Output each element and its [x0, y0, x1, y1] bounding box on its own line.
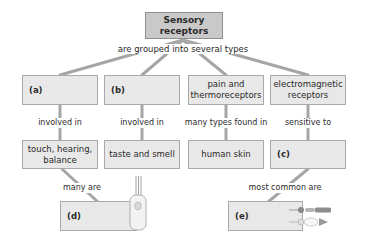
root-link-label: are grouped into several types [116, 44, 251, 54]
leaf-link-label-d: many are [61, 183, 103, 193]
type-node-pain-thermo: pain and thermoreceptors [188, 75, 264, 105]
target-node-touch: touch, hearing, balance [22, 140, 98, 169]
type-node-electromagnetic: electromagnetic receptors [270, 75, 346, 105]
type-node-a-label: (a) [29, 85, 43, 96]
target-node-taste: taste and smell [104, 140, 180, 169]
type-node-b: (b) [104, 75, 180, 105]
type-node-b-label: (b) [111, 85, 125, 96]
type-node-electromagnetic-label: electromagnetic receptors [271, 79, 345, 101]
type-node-a: (a) [22, 75, 98, 105]
leaf-node-d-label: (d) [67, 211, 81, 222]
target-node-skin-label: human skin [201, 149, 250, 160]
leaf-link-label-e: most common are [247, 183, 324, 193]
target-node-touch-label: touch, hearing, balance [23, 144, 97, 166]
target-node-skin: human skin [188, 140, 264, 169]
link-label-electromagnetic: sensitive to [283, 118, 333, 128]
link-label-pain-thermo: many types found in [183, 118, 269, 128]
rod-cone-cells-icon [287, 204, 347, 230]
root-node: Sensory receptors [145, 12, 223, 39]
target-node-c-label: (c) [277, 149, 290, 160]
type-node-pain-thermo-label: pain and thermoreceptors [189, 79, 263, 101]
target-node-c: (c) [270, 140, 346, 169]
link-label-b: involved in [118, 118, 166, 128]
target-node-taste-label: taste and smell [109, 149, 175, 160]
hair-cell-icon [126, 176, 150, 236]
leaf-node-e-label: (e) [235, 211, 249, 222]
link-label-a: involved in [36, 118, 84, 128]
root-node-label: Sensory receptors [146, 15, 222, 37]
